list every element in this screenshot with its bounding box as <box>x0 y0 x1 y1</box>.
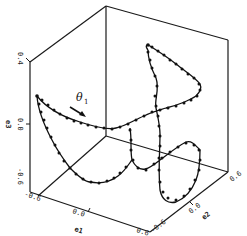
x-axis-label: e1 <box>73 225 83 235</box>
theta-label: θ <box>76 91 83 104</box>
x-tick-mid: 0.0 <box>71 207 86 219</box>
trajectory-path <box>37 45 201 202</box>
y-tick-mid: 0.0 <box>187 201 202 215</box>
z-axis-label: e3 <box>4 120 12 128</box>
z-tick-mid: 0.0 <box>16 118 24 131</box>
trajectory-series <box>37 45 201 202</box>
x-tick-right: 0.6 <box>135 226 150 236</box>
theta-arrow-head-icon <box>79 111 86 117</box>
x-tick-left: -0.6 <box>23 190 42 203</box>
3d-trajectory-plot: θ 1 0.4 0.0 -0.6 e3 -0.6 0.0 0.6 e1 -0.6… <box>0 0 247 236</box>
theta-subscript: 1 <box>84 98 88 106</box>
box-floor-front-left <box>30 192 150 232</box>
z-tick-top: 0.4 <box>16 52 24 65</box>
axis-ticks <box>26 58 193 212</box>
y-axis-label: e2 <box>200 210 212 221</box>
box-floor-back-left <box>38 136 106 196</box>
theta-annotation: θ 1 <box>70 91 88 117</box>
y-tick-back: 0.6 <box>228 169 243 183</box>
z-axis-labels: 0.4 0.0 -0.6 e3 <box>4 52 24 185</box>
trajectory-markers <box>35 43 201 201</box>
box-top-right <box>106 6 228 40</box>
x-axis-labels: -0.6 0.0 0.6 e1 <box>23 190 150 236</box>
z-tick-bottom: -0.6 <box>16 168 24 185</box>
plot-box <box>30 6 228 232</box>
box-top-left <box>30 6 106 62</box>
